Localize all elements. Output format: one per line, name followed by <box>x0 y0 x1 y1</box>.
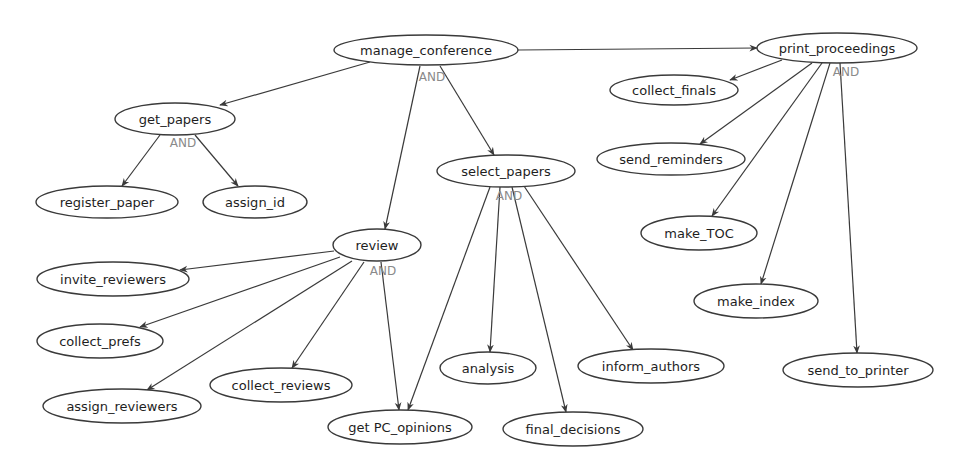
node-final_decisions[interactable]: final_decisions <box>503 412 643 446</box>
node-label: review <box>356 238 399 253</box>
edge-get_papers-to-register_paper <box>122 135 160 186</box>
edge-get_papers-to-assign_id <box>195 135 238 186</box>
edge-print_proceedings-to-send_to_printer <box>840 63 857 353</box>
edge-review-to-collect_reviews <box>292 262 364 368</box>
node-label: assign_reviewers <box>66 399 177 414</box>
node-label: select_papers <box>461 164 551 179</box>
edge-select_papers-to-analysis <box>490 187 500 352</box>
node-make_TOC[interactable]: make_TOC <box>641 216 757 250</box>
node-label: print_proceedings <box>779 41 896 56</box>
and-label-print_proceedings: AND <box>833 65 859 79</box>
node-invite_reviewers[interactable]: invite_reviewers <box>37 262 189 296</box>
node-label: assign_id <box>225 195 285 210</box>
goal-tree-diagram: ANDANDANDANDAND manage_conferenceprint_p… <box>0 0 967 475</box>
node-manage_conference[interactable]: manage_conference <box>334 35 518 65</box>
edge-select_papers-to-inform_authors <box>524 186 633 350</box>
node-label: collect_finals <box>632 83 716 98</box>
node-collect_finals[interactable]: collect_finals <box>610 75 738 105</box>
node-label: collect_prefs <box>59 334 141 349</box>
node-assign_reviewers[interactable]: assign_reviewers <box>43 389 201 423</box>
node-register_paper[interactable]: register_paper <box>36 186 178 218</box>
node-get_papers[interactable]: get_papers <box>115 103 235 135</box>
node-make_index[interactable]: make_index <box>694 284 818 318</box>
node-label: analysis <box>462 361 515 376</box>
node-collect_prefs[interactable]: collect_prefs <box>37 324 163 358</box>
node-select_papers[interactable]: select_papers <box>437 155 575 187</box>
and-label-manage_conference: AND <box>419 70 445 84</box>
node-label: invite_reviewers <box>60 272 166 287</box>
node-label: manage_conference <box>360 43 492 58</box>
edge-print_proceedings-to-send_reminders <box>700 63 812 144</box>
node-label: inform_authors <box>602 359 701 374</box>
and-label-select_papers: AND <box>496 189 522 203</box>
node-label: send_to_printer <box>807 363 909 378</box>
node-label: register_paper <box>60 195 155 210</box>
node-analysis[interactable]: analysis <box>440 352 536 384</box>
edge-manage_conference-to-print_proceedings <box>518 48 757 50</box>
node-label: collect_reviews <box>232 378 331 393</box>
and-label-review: AND <box>370 264 396 278</box>
node-send_to_printer[interactable]: send_to_printer <box>783 353 933 387</box>
node-label: make_index <box>717 294 795 309</box>
node-assign_id[interactable]: assign_id <box>203 186 307 218</box>
node-label: get_papers <box>139 112 212 127</box>
node-inform_authors[interactable]: inform_authors <box>578 349 724 383</box>
node-get_PC_opinions[interactable]: get PC_opinions <box>328 410 472 444</box>
node-label: final_decisions <box>526 422 621 437</box>
edge-review-to-get_PC_opinions <box>381 262 399 410</box>
edge-manage_conference-to-review <box>385 66 420 229</box>
edge-manage_conference-to-get_papers <box>220 62 370 105</box>
edge-manage_conference-to-select_papers <box>440 66 494 155</box>
node-label: make_TOC <box>664 226 733 241</box>
node-print_proceedings[interactable]: print_proceedings <box>757 33 917 63</box>
node-send_reminders[interactable]: send_reminders <box>597 143 745 175</box>
node-review[interactable]: review <box>333 229 421 261</box>
edge-print_proceedings-to-make_index <box>761 63 830 284</box>
node-collect_reviews[interactable]: collect_reviews <box>210 368 352 402</box>
and-label-get_papers: AND <box>170 136 196 150</box>
node-label: get PC_opinions <box>348 420 452 435</box>
node-label: send_reminders <box>619 152 723 167</box>
edge-print_proceedings-to-collect_finals <box>730 60 782 80</box>
